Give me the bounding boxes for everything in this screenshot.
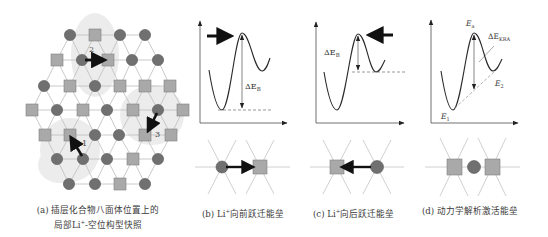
- vacancy-site: [127, 104, 139, 116]
- vacancy-site: [114, 178, 126, 190]
- e2-label: E2: [494, 79, 504, 89]
- li-ion: [64, 29, 75, 40]
- vacancy-site: [165, 129, 177, 141]
- li-ion: [51, 153, 62, 164]
- vacancy-site: [139, 129, 151, 141]
- caption-b: (b) Li+向前跃迁能垒: [202, 205, 284, 220]
- vacancy-site: [64, 80, 76, 92]
- li-ion: [152, 54, 163, 65]
- panel-c-energy-plot: ΔEB: [310, 22, 406, 194]
- li-ion: [89, 178, 100, 189]
- li-ion: [468, 161, 481, 174]
- panel-b-energy-plot: ΔEB: [195, 21, 290, 194]
- vacancy-site: [26, 104, 38, 116]
- barrier-label: ΔEB: [324, 48, 340, 58]
- vacancy-site: [102, 54, 114, 66]
- caption-c: (c) Li+向后跃迁能垒: [313, 205, 394, 220]
- vacancy-site-left: [447, 159, 462, 175]
- ea-label: Ea: [465, 19, 474, 29]
- vacancy-site: [253, 160, 267, 174]
- li-ion: [63, 178, 74, 189]
- vacancy-site: [89, 29, 101, 41]
- hop-label-1: 1: [82, 139, 87, 148]
- energy-curve: [209, 33, 270, 110]
- vacancy-site: [114, 80, 126, 92]
- li-ion: [51, 104, 62, 115]
- vacancy-site: [64, 129, 76, 141]
- li-ion: [89, 80, 100, 91]
- barrier-label: ΔEB: [245, 82, 261, 92]
- li-ion: [113, 129, 124, 140]
- li-ion: [101, 104, 112, 115]
- caption-a-line2: 局部Li+-空位构型快照: [0, 216, 196, 231]
- li-ion: [126, 54, 137, 65]
- vacancy-site: [77, 104, 89, 116]
- kra-label: ΔEKRA: [488, 32, 510, 42]
- vacancy-site-right: [485, 159, 500, 175]
- caption-d: (d) 动力学解析激活能垒: [422, 205, 518, 217]
- kra-leader: [479, 46, 494, 62]
- hop-label-3: 3: [155, 130, 160, 139]
- li-ion: [77, 153, 88, 164]
- li-ion: [38, 80, 49, 91]
- li-ion: [114, 29, 125, 40]
- li-ion: [89, 129, 100, 140]
- vacancy-site: [51, 54, 63, 66]
- vacancy-site: [177, 104, 189, 116]
- caption-a-line1: (a) 插层化合物八面体位置上的: [0, 204, 196, 216]
- vacancy-site: [330, 160, 344, 174]
- vacancy-site: [139, 80, 151, 92]
- vacancy-site: [164, 80, 176, 92]
- figure: 1 2 3 ΔEB: [0, 0, 548, 237]
- vacancy-site: [127, 153, 139, 165]
- caption-a: (a) 插层化合物八面体位置上的 局部Li+-空位构型快照: [0, 204, 196, 231]
- panel-a-lattice: 1 2 3: [26, 13, 189, 190]
- li-ion: [152, 104, 163, 115]
- hop-label-2: 2: [89, 45, 94, 54]
- li-ion: [101, 153, 112, 164]
- e1-label: E1: [440, 112, 450, 122]
- li-ion: [139, 29, 150, 40]
- li-ion: [371, 161, 384, 174]
- energy-curve: [441, 33, 502, 110]
- vacancy-site: [39, 129, 51, 141]
- li-ion: [152, 153, 163, 164]
- panel-d-energy-plot: Ea ΔEKRA E2 E1: [425, 19, 520, 196]
- li-ion: [139, 178, 150, 189]
